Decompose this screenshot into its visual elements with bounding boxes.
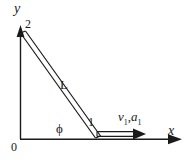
- y-axis-label: y: [14, 2, 20, 16]
- rod-length-label: L: [60, 78, 68, 91]
- angle-phi-label: ϕ: [56, 122, 63, 135]
- x-axis-label: x: [168, 124, 174, 138]
- x-axis: [20, 134, 182, 144]
- origin-label: 0: [11, 141, 17, 153]
- velocity-acceleration-label: v1,a1: [118, 110, 142, 127]
- point-2-label: 2: [25, 18, 31, 30]
- figure-canvas: y 2 L ϕ 1 v1,a1 x 0: [0, 0, 190, 163]
- acceleration-subscript: 1: [138, 118, 142, 127]
- point-1-label: 1: [88, 116, 94, 128]
- velocity-acceleration-vector-icon: [97, 129, 146, 140]
- y-axis: [17, 25, 25, 139]
